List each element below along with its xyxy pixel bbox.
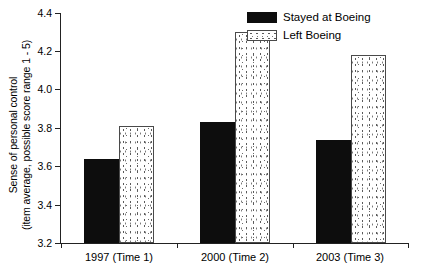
x-tick-group-1-2 xyxy=(177,243,178,248)
legend-item-stayed-at-boeing: Stayed at Boeing xyxy=(247,9,417,25)
bar-1997-left-boeing xyxy=(119,126,154,243)
x-tick-group-2-3 xyxy=(293,243,294,248)
legend-label-left-boeing: Left Boeing xyxy=(283,29,341,42)
y-tick-label-4.4: 4.4 xyxy=(22,8,52,18)
x-tick-left-edge xyxy=(61,243,62,248)
legend: Stayed at Boeing Left Boeing xyxy=(247,9,417,45)
y-tick-label-3.8: 3.8 xyxy=(22,123,52,133)
x-axis-label-2003: 2003 (Time 3) xyxy=(285,250,415,264)
y-tick-4.4 xyxy=(55,13,60,14)
y-tick-label-4.2: 4.2 xyxy=(22,46,52,56)
legend-item-left-boeing: Left Boeing xyxy=(247,27,417,43)
bar-2003-stayed-at-boeing xyxy=(316,140,351,244)
y-tick-4.2 xyxy=(55,51,60,52)
legend-swatch-dotted-icon xyxy=(247,30,277,41)
bar-2003-left-boeing xyxy=(351,55,386,243)
y-tick-4.0 xyxy=(55,89,60,90)
y-axis-title-line-1: Sense of personal control xyxy=(7,17,20,253)
y-tick-label-3.2: 3.2 xyxy=(22,238,52,248)
y-tick-3.4 xyxy=(55,205,60,206)
y-tick-label-3.4: 3.4 xyxy=(22,200,52,210)
y-tick-3.8 xyxy=(55,128,60,129)
bar-2000-stayed-at-boeing xyxy=(200,122,235,243)
legend-label-stayed-at-boeing: Stayed at Boeing xyxy=(283,11,371,24)
x-axis-label-2000: 2000 (Time 2) xyxy=(170,250,300,264)
y-tick-label-4.0: 4.0 xyxy=(22,84,52,94)
plot-area xyxy=(61,13,409,243)
y-tick-3.6 xyxy=(55,166,60,167)
bar-2000-left-boeing xyxy=(235,32,270,243)
legend-swatch-solid-icon xyxy=(247,12,277,23)
y-tick-label-3.6: 3.6 xyxy=(22,161,52,171)
y-tick-3.2 xyxy=(55,243,60,244)
x-tick-right-edge xyxy=(408,243,409,248)
x-axis-label-1997: 1997 (Time 1) xyxy=(54,250,184,264)
bar-chart-figure: Sense of personal control (item average,… xyxy=(0,0,422,273)
x-axis-line xyxy=(60,243,409,244)
bar-1997-stayed-at-boeing xyxy=(84,159,119,243)
